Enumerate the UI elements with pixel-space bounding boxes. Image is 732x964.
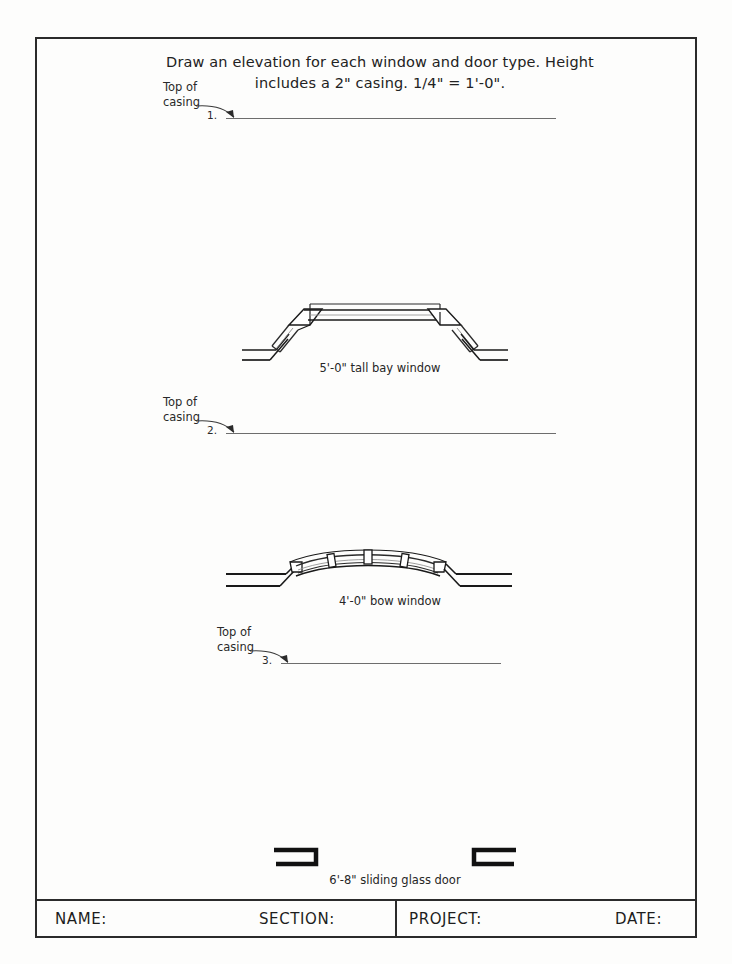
task-1-baseline — [226, 118, 556, 119]
task-3-leader-arrow — [250, 638, 310, 666]
sliding-glass-door-figure — [270, 846, 520, 872]
worksheet-page: Draw an elevation for each window and do… — [0, 0, 732, 964]
bay-window-figure — [232, 282, 512, 362]
title-block-right-cell: PROJECT: DATE: — [397, 901, 695, 936]
task-2-callout-line-1: Top of — [163, 395, 197, 409]
task-2-leader-arrow — [196, 408, 256, 436]
title-block-left-cell: NAME: SECTION: — [37, 901, 397, 936]
task-3-number: 3. — [262, 654, 272, 666]
task-2-callout-line-2: casing — [163, 410, 200, 424]
title-block-date-label: DATE: — [615, 910, 662, 928]
bow-window-figure — [218, 542, 518, 602]
task-3-baseline — [281, 663, 501, 664]
task-3-callout-line-1: Top of — [217, 625, 251, 639]
task-1-callout: Top of casing — [163, 80, 200, 110]
bay-window-caption: 5'-0" tall bay window — [280, 361, 480, 375]
bow-window-caption: 4'-0" bow window — [300, 594, 480, 608]
title-block-section-label: SECTION: — [259, 910, 335, 928]
task-1-number: 1. — [207, 109, 217, 121]
task-3-callout: Top of casing — [217, 625, 254, 655]
sheet-border — [35, 37, 697, 938]
instruction-line-1: Draw an elevation for each window and do… — [120, 52, 640, 73]
task-1-callout-line-1: Top of — [163, 80, 197, 94]
task-3-callout-line-2: casing — [217, 640, 254, 654]
task-1-callout-line-2: casing — [163, 95, 200, 109]
title-block-project-label: PROJECT: — [409, 910, 482, 928]
sliding-glass-door-caption: 6'-8" sliding glass door — [290, 873, 500, 887]
task-2-number: 2. — [207, 424, 217, 436]
task-1-leader-arrow — [196, 93, 256, 121]
task-2-callout: Top of casing — [163, 395, 200, 425]
title-block-name-label: NAME: — [55, 910, 107, 928]
title-block: NAME: SECTION: PROJECT: DATE: — [35, 899, 697, 938]
task-2-baseline — [226, 433, 556, 434]
